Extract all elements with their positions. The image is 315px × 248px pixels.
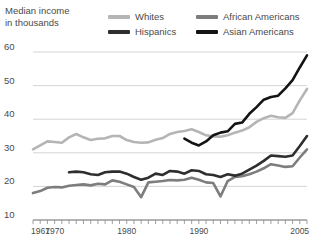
- x-axis-label-1970: 1970: [45, 226, 64, 236]
- x-axis-label-2005: 2005: [290, 226, 309, 236]
- x-axis-label-1980: 1980: [117, 226, 136, 236]
- plot-area: 10203040506019671970198019902005: [0, 0, 315, 248]
- series-line-asian-americans: [184, 55, 307, 145]
- median-income-line-chart: Median income in thousands Whites Africa…: [0, 0, 315, 248]
- x-axis-label-1990: 1990: [189, 226, 208, 236]
- y-axis-label-60: 60: [4, 41, 26, 52]
- y-axis-label-10: 10: [4, 209, 26, 220]
- series-line-african-americans: [33, 149, 307, 197]
- y-axis-label-30: 30: [4, 142, 26, 153]
- plot-svg: [0, 0, 315, 248]
- series-line-hispanics: [69, 136, 307, 180]
- y-axis-label-20: 20: [4, 175, 26, 186]
- y-axis-label-50: 50: [4, 75, 26, 86]
- y-axis-label-40: 40: [4, 108, 26, 119]
